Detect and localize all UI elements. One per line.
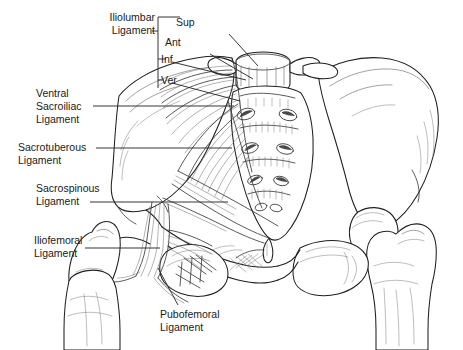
figure-canvas: .o{fill:none;stroke:#1f1f1f;stroke-width… xyxy=(0,0,463,350)
label-iliofemoral-line1: Iliofemoral xyxy=(34,234,82,247)
label-band-ant: Ant xyxy=(165,36,181,49)
label-sacrotuberous-line2: Ligament xyxy=(18,154,86,167)
label-band-inf: Inf xyxy=(161,53,173,66)
label-band-ver: Ver xyxy=(161,74,177,87)
label-sacrotuberous-ligament: Sacrotuberous Ligament xyxy=(18,141,86,167)
label-ventral-sacroiliac-line1: Ventral xyxy=(36,87,82,100)
label-iliofemoral-line2: Ligament xyxy=(34,247,82,260)
anatomy-illustration: .o{fill:none;stroke:#1f1f1f;stroke-width… xyxy=(0,0,463,350)
label-pubofemoral-line1: Pubofemoral xyxy=(160,308,220,321)
label-sacrospinous-ligament: Sacrospinous Ligament xyxy=(36,182,100,208)
label-iliofemoral-ligament: Iliofemoral Ligament xyxy=(34,234,82,260)
label-iliolumbar-line1: Iliolumbar xyxy=(85,11,155,24)
label-iliolumbar-ligament: Iliolumbar Ligament xyxy=(85,11,155,37)
label-pubofemoral-line2: Ligament xyxy=(160,321,220,334)
label-sacrospinous-line1: Sacrospinous xyxy=(36,182,100,195)
label-ventral-sacroiliac-ligament: Ventral Sacroiliac Ligament xyxy=(36,87,82,126)
label-band-sup: Sup xyxy=(176,16,195,29)
label-ventral-sacroiliac-line2: Sacroiliac xyxy=(36,100,82,113)
label-ventral-sacroiliac-line3: Ligament xyxy=(36,113,82,126)
label-sacrospinous-line2: Ligament xyxy=(36,195,100,208)
label-iliolumbar-line2: Ligament xyxy=(85,24,155,37)
label-sacrotuberous-line1: Sacrotuberous xyxy=(18,141,86,154)
label-pubofemoral-ligament: Pubofemoral Ligament xyxy=(160,308,220,334)
